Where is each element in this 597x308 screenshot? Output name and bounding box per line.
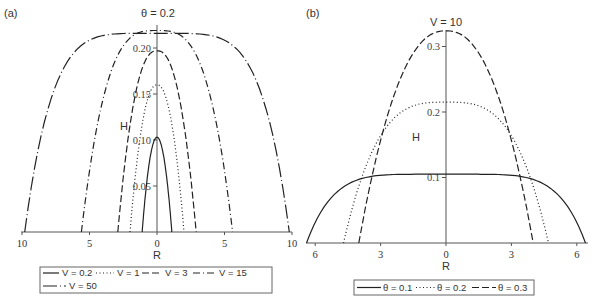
- x-tick-label: 5: [222, 238, 227, 249]
- x-tick-label: 5: [87, 238, 92, 249]
- x-tick-label: 0: [154, 238, 159, 249]
- panel-b-label: (b): [306, 7, 319, 19]
- legend-item: θ = 0.1: [383, 282, 412, 293]
- x-ticks: 63036: [313, 243, 580, 260]
- y-axis-label: H: [120, 120, 128, 132]
- x-axis-label: R: [153, 249, 161, 261]
- legend-item: V = 3: [165, 267, 187, 278]
- y-tick-label: 0.05: [133, 181, 151, 192]
- x-tick-label: 3: [509, 249, 514, 260]
- legend-item: θ = 0.2: [437, 282, 466, 293]
- y-tick-label: 0.3: [427, 41, 440, 52]
- x-ticks: 1050510: [17, 232, 298, 249]
- legend-item: V = 0.2: [62, 267, 92, 278]
- x-tick-label: 3: [378, 249, 383, 260]
- y-tick-label: 0.10: [133, 135, 151, 146]
- y-ticks: 0.10.20.3: [427, 41, 446, 183]
- y-tick-label: 0.2: [427, 107, 440, 118]
- x-axis-label: R: [442, 260, 450, 272]
- x-tick-label: 10: [17, 238, 28, 249]
- y-tick-label: 0.20: [133, 43, 151, 54]
- panel-b: (b) V = 10 63036 0.10.20.3 H R θ = 0.1 θ…: [306, 7, 588, 295]
- panel-a-label: (a): [4, 7, 17, 19]
- y-axis-label: H: [412, 131, 420, 143]
- legend-item: V = 50: [69, 280, 97, 291]
- y-tick-label: 0.15: [133, 89, 151, 100]
- x-tick-label: 0: [443, 249, 448, 260]
- legend-item: V = 15: [219, 267, 247, 278]
- x-tick-label: 6: [574, 249, 579, 260]
- x-tick-label: 10: [287, 238, 298, 249]
- x-tick-label: 6: [313, 249, 318, 260]
- panel-a-title: θ = 0.2: [141, 7, 175, 19]
- panel-a: (a) θ = 0.2 1050510 0.050.100.150.20 H R…: [4, 7, 297, 293]
- figure: (a) θ = 0.2 1050510 0.050.100.150.20 H R…: [0, 0, 597, 308]
- legend-item: V = 1: [117, 267, 139, 278]
- panel-b-title: V = 10: [430, 16, 462, 28]
- legend-item: θ = 0.3: [498, 282, 527, 293]
